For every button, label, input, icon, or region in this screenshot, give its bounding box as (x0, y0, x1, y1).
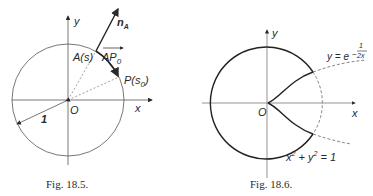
radius-to-p (68, 77, 119, 100)
caption: Fig. 18.5. (46, 178, 88, 190)
svg-text:y = e: y = e (326, 51, 349, 62)
curve-upper-solid (268, 72, 313, 103)
normal-label: nA (117, 16, 129, 30)
origin-label: O (258, 106, 267, 118)
svg-text:AP0: AP0 (101, 51, 122, 66)
curve-equation-label: y = e − 1 2x (326, 42, 367, 62)
x-axis-label: x (351, 107, 358, 119)
figure-18-5: y x O nA A(s) AP0 P(s0) 1 Fig. 18.5. (12, 9, 152, 190)
radius-label: 1 (41, 113, 47, 125)
y-axis-label: y (73, 15, 81, 27)
curve-lower-solid (268, 103, 313, 134)
point-p-label: P(s0) (124, 74, 149, 89)
caption: Fig. 18.6. (250, 178, 292, 190)
figure-18-6: y x O y = e − 1 2x x2 + y2 = 1 Fig. 18.6… (202, 27, 367, 190)
svg-text:2x: 2x (356, 52, 365, 59)
y-axis-label: y (271, 27, 279, 39)
normal-vector (96, 9, 118, 51)
circle-equation-label: x2 + y2 = 1 (285, 150, 336, 163)
x-axis-label: x (134, 102, 141, 114)
figure-canvas: y x O nA A(s) AP0 P(s0) 1 Fig. 18.5. y x… (0, 0, 373, 196)
origin-label: O (70, 104, 79, 116)
svg-text:1: 1 (359, 42, 363, 49)
vector-ap0-label: AP0 (101, 48, 123, 66)
point-a-label: A(s) (72, 51, 94, 63)
curve-lower-dashed (313, 134, 351, 144)
